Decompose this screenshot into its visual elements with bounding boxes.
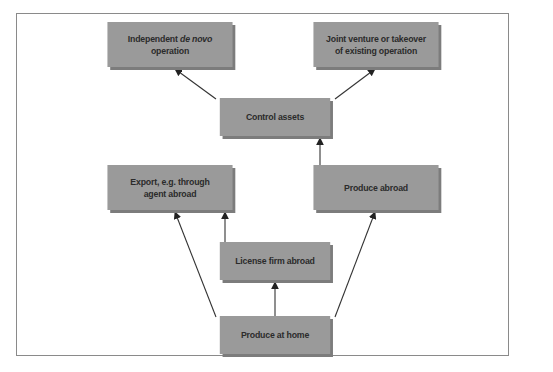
node-label-italic: de novo xyxy=(180,33,212,44)
node-label: Produce at home xyxy=(241,329,309,341)
node-label: Control assets xyxy=(246,111,304,123)
node-export: Export, e.g. through agent abroad xyxy=(107,165,232,210)
edge-home-produce-abroad xyxy=(335,212,375,317)
edge-control-independent xyxy=(175,69,216,99)
edge-home-export xyxy=(175,212,216,317)
node-label: agent abroad xyxy=(144,188,197,199)
edge-control-joint xyxy=(335,69,375,99)
node-label: Produce abroad xyxy=(344,182,408,194)
node-label: License firm abroad xyxy=(235,255,315,267)
node-label: Independent xyxy=(128,33,180,44)
node-independent-de-novo: Independent de novo operation xyxy=(107,22,232,67)
node-label: Joint venture or takeover xyxy=(326,33,426,44)
node-label: Export, e.g. through xyxy=(130,176,209,187)
node-produce-at-home: Produce at home xyxy=(220,316,330,354)
node-label: operation xyxy=(151,45,189,56)
node-produce-abroad: Produce abroad xyxy=(313,165,438,210)
node-label: of existing operation xyxy=(335,45,417,56)
node-joint-venture: Joint venture or takeover of existing op… xyxy=(313,22,438,67)
node-control-assets: Control assets xyxy=(220,98,330,136)
node-license-firm-abroad: License firm abroad xyxy=(220,242,330,280)
